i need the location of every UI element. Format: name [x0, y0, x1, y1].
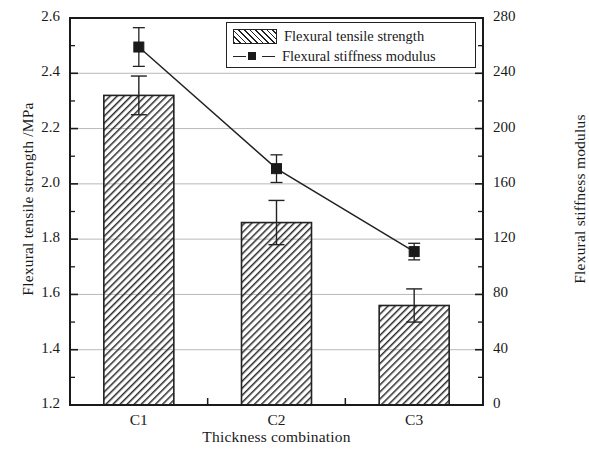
- marker-C3: [409, 247, 419, 257]
- x-axis-label: Thickness combination: [70, 428, 483, 446]
- bar-C2: [242, 223, 312, 405]
- y-tick-label-right: 0: [493, 395, 539, 412]
- y-tick-label-left: 2.2: [18, 119, 60, 136]
- y-tick-label-right: 160: [493, 174, 539, 191]
- x-tick-label-C2: C2: [247, 411, 307, 429]
- legend-label-0: Flexural tensile strength: [284, 28, 424, 45]
- y-tick-label-right: 280: [493, 8, 539, 25]
- x-tick-label-C3: C3: [384, 411, 444, 429]
- y-tick-label-left: 2.0: [18, 174, 60, 191]
- legend-item-flexural-tensile-strength: Flexural tensile strength: [233, 26, 424, 46]
- y-tick-label-left: 1.4: [18, 340, 60, 357]
- line-square-marker-icon: [233, 50, 275, 63]
- hatched-swatch-icon: [233, 29, 277, 44]
- bar-C1: [104, 95, 174, 405]
- marker-C1: [134, 42, 144, 52]
- y-tick-label-left: 1.6: [18, 284, 60, 301]
- y-tick-label-left: 1.8: [18, 229, 60, 246]
- y-tick-label-right: 120: [493, 229, 539, 246]
- y-tick-label-right: 240: [493, 63, 539, 80]
- legend-label-1: Flexural stiffness modulus: [282, 48, 436, 65]
- y-axis-right-label: Flexural stiffness modulus: [571, 19, 589, 379]
- y-tick-label-right: 80: [493, 284, 539, 301]
- y-tick-label-left: 1.2: [18, 395, 60, 412]
- x-tick-label-C1: C1: [109, 411, 169, 429]
- chart-legend: Flexural tensile strength Flexural stiff…: [226, 22, 476, 68]
- y-tick-label-right: 40: [493, 340, 539, 357]
- marker-C2: [272, 164, 282, 174]
- y-tick-label-left: 2.4: [18, 63, 60, 80]
- legend-item-flexural-stiffness-modulus: Flexural stiffness modulus: [233, 46, 436, 66]
- y-tick-label-left: 2.6: [18, 8, 60, 25]
- y-tick-label-right: 200: [493, 119, 539, 136]
- bar-series: [104, 95, 449, 405]
